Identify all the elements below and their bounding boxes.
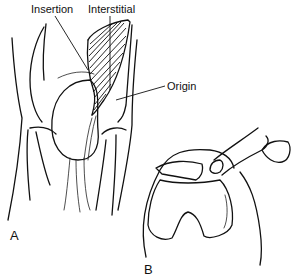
insertion-leader [55, 16, 88, 70]
panel-b-label: B [144, 262, 153, 277]
panel-a-label: A [10, 228, 19, 243]
vastus-muscle-hatching [87, 20, 130, 115]
origin-label: Origin [167, 80, 196, 92]
finger-drawing [210, 128, 290, 265]
origin-leader [116, 86, 165, 100]
panel-b-axial-knee [143, 128, 290, 265]
knee-illustration: Insertion Interstitial Origin A B [0, 0, 294, 277]
interstitial-label: Interstitial [88, 3, 135, 15]
panel-a-knee-drawing [8, 20, 137, 220]
insertion-label: Insertion [31, 3, 73, 15]
